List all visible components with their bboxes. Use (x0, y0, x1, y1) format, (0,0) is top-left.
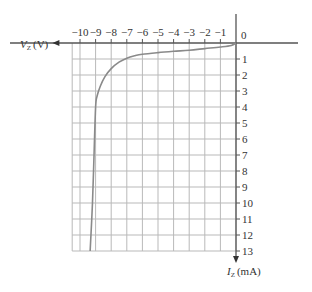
y-tick-label: 4 (242, 101, 248, 113)
y-tick-label: 1 (242, 53, 248, 65)
y-axis-label: IZ(mA) (226, 265, 261, 279)
x-axis-label: VZ(V) (20, 38, 49, 52)
zener-characteristic-chart: −10−9−8−7−6−5−4−3−2−1 12345678910111213 … (0, 0, 312, 292)
x-tick-label: −4 (168, 26, 180, 38)
y-tick-label: 9 (242, 181, 248, 193)
y-axis-arrow-icon (233, 256, 239, 263)
y-tick-label: 7 (242, 149, 248, 161)
x-tick-label: −7 (121, 26, 133, 38)
y-axis-label-sub: Z (231, 271, 235, 279)
y-tick-label: 2 (242, 69, 248, 81)
x-axis-arrow-icon (52, 40, 59, 46)
y-tick-label: 10 (242, 197, 254, 209)
x-tick-label: −8 (105, 26, 117, 38)
x-axis-label-sub: Z (27, 44, 31, 52)
x-tick-label: −3 (183, 26, 195, 38)
y-tick-label: 5 (242, 117, 248, 129)
x-tick-label: −6 (137, 26, 149, 38)
y-tick-labels: 12345678910111213 (242, 53, 254, 257)
x-tick-labels: −10−9−8−7−6−5−4−3−2−1 (71, 26, 226, 38)
x-axis-label-unit: (V) (33, 38, 49, 51)
y-tick-label: 6 (242, 133, 248, 145)
x-tick-label: −1 (215, 26, 227, 38)
x-tick-label: −5 (152, 26, 164, 38)
characteristic-curve (90, 43, 236, 251)
y-tick-label: 12 (242, 229, 253, 241)
y-axis-label-unit: (mA) (237, 265, 261, 278)
grid (72, 43, 236, 251)
x-tick-label: −9 (90, 26, 102, 38)
y-tick-label: 3 (242, 85, 248, 97)
y-tick-label: 8 (242, 165, 248, 177)
y-tick-label: 11 (242, 213, 253, 225)
y-tick-label: 13 (242, 245, 254, 257)
x-tick-label: −10 (71, 26, 89, 38)
origin-label: 0 (241, 29, 247, 41)
x-tick-label: −2 (199, 26, 211, 38)
